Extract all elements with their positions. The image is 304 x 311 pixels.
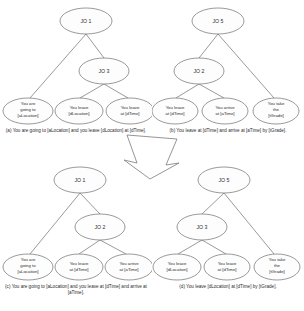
node-internal-b-label: JO 2 (194, 68, 205, 74)
edge-root-to-leaf1 (30, 34, 86, 98)
tree-panel-a: JO 1 JO 3 You are going to [aLocation] Y… (0, 0, 152, 155)
leaf-label-line: You leave (166, 105, 185, 110)
edge-internal-to-leaf3 (100, 240, 126, 254)
arrow-glyph (124, 135, 179, 179)
panel-caption-c: (c) You are going to [aLocation] and you… (2, 284, 150, 296)
leaf-label-line: at [dTime] (166, 111, 185, 116)
leaf-label-line: at [aTime] (120, 267, 139, 272)
edge-internal-to-leaf2 (80, 84, 104, 98)
leaf-label-line: You take (269, 257, 286, 262)
leaf-label-line: You leave (168, 261, 187, 266)
leaf-label-line: You take (268, 101, 285, 106)
leaf-label-line: You leave (218, 261, 237, 266)
node-root-d-label: JO 5 (219, 177, 230, 183)
leaf-label-line: at [aTime] (216, 111, 235, 116)
edge-root-to-internal (202, 193, 224, 214)
tree-diagram-a: JO 1 JO 3 You are going to [aLocation] Y… (0, 0, 152, 130)
node-root-c-label: JO 1 (75, 177, 86, 183)
tree-diagram-b: JO 5 JO 2 You leave at [dTime] You arriv… (152, 0, 304, 130)
edge-internal-to-leaf3 (104, 84, 128, 98)
leaf-label-line: [dLocation] (166, 267, 187, 272)
leaf-label-line: You are (21, 257, 36, 262)
edge-root-to-leaf1 (30, 193, 80, 254)
node-root-b-label: JO 5 (213, 18, 224, 24)
leaf-label-line: You are (21, 101, 36, 106)
leaf-label-line: going to (20, 263, 36, 268)
leaf-label-line: [tGrade] (268, 113, 284, 118)
leaf-label-line: at [dTime] (70, 267, 89, 272)
leaf-label-line: at [dTime] (218, 267, 237, 272)
edge-root-to-internal (80, 193, 100, 214)
tree-panel-b: JO 5 JO 2 You leave at [dTime] You arriv… (152, 0, 304, 155)
leaf-label-line: You leave (121, 105, 140, 110)
leaf-label-line: going to (20, 107, 36, 112)
edge-internal-to-leaf2 (199, 84, 224, 98)
leaf-label-line: You arrive (119, 261, 139, 266)
node-internal-c-label: JO 2 (95, 224, 106, 230)
leaf-label-line: [tGrade] (269, 269, 285, 274)
edge-internal-to-leaf2 (79, 240, 100, 254)
leaf-label-line: You arrive (215, 105, 235, 110)
leaf-label-line: You leave (70, 105, 89, 110)
leaf-label-line: [aLocation] (17, 113, 38, 118)
edge-internal-to-leaf2 (202, 240, 226, 254)
leaf-label-line: [aLocation] (17, 269, 38, 274)
leaf-label-line: the (274, 263, 281, 268)
leaf-label-line: the (273, 107, 280, 112)
edge-internal-to-leaf1 (176, 84, 199, 98)
node-root-a-label: JO 1 (81, 18, 92, 24)
down-arrow-icon (119, 133, 185, 181)
edge-root-to-internal (199, 34, 218, 58)
node-internal-a-label: JO 3 (99, 68, 110, 74)
leaf-label-line: You leave (70, 261, 89, 266)
edge-internal-to-leaf1 (178, 240, 202, 254)
node-internal-d-label: JO 3 (197, 224, 208, 230)
tree-transformation-figure: JO 1 JO 3 You are going to [aLocation] Y… (0, 0, 304, 311)
edge-root-to-internal (86, 34, 104, 58)
edge-root-to-leaf3 (218, 34, 274, 98)
edge-root-to-leaf3 (224, 193, 274, 254)
leaf-label-line: [dLocation] (68, 111, 89, 116)
leaf-label-line: at [dTime] (121, 111, 140, 116)
panel-caption-d: (d) You leave [dLocation] at [dTime] by … (154, 284, 302, 290)
